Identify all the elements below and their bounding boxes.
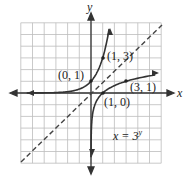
label-1-0: (1, 0) (104, 95, 130, 109)
label-3-1: (3, 1) (130, 80, 156, 94)
graph: x y (0, 1) (1, 3) (3, 1) (1, 0) x = 3y (0, 0, 190, 184)
label-1-3: (1, 3) (107, 49, 133, 63)
x-axis-right-arrow-icon (167, 90, 174, 96)
curve1-left-arrow-icon (27, 90, 34, 96)
x-axis-left-arrow-icon (10, 90, 17, 96)
point-3-1 (124, 79, 128, 83)
curve2-bottom-arrow-icon (89, 149, 95, 156)
y-axis-top-arrow-icon (88, 13, 94, 20)
equation-label: x = 3y (112, 128, 142, 143)
x-axis-label: x (176, 86, 183, 100)
y-axis-label: y (86, 0, 93, 14)
y-axis-bottom-arrow-icon (88, 167, 94, 174)
label-0-1: (0, 1) (58, 68, 84, 82)
curve2-arrow-icon (152, 70, 159, 76)
point-0-1 (89, 79, 93, 83)
point-1-3 (101, 56, 105, 60)
